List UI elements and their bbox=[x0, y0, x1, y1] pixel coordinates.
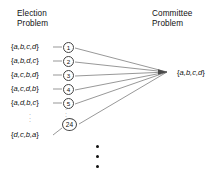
edge-4 bbox=[75, 72, 167, 90]
stub-24 bbox=[53, 128, 62, 135]
edge-1 bbox=[75, 48, 167, 72]
brace-close: } bbox=[202, 68, 205, 77]
node-circle-ellipsis: · · · bbox=[65, 108, 67, 119]
permutation-letters: d,c,b,a bbox=[14, 130, 37, 139]
brace-close: } bbox=[36, 130, 39, 139]
permutation-letters: a,b,d,c bbox=[14, 56, 37, 65]
list-item: {d,c,b,a} bbox=[11, 130, 39, 139]
list-item: {a,b,d,c} bbox=[11, 56, 39, 65]
list-item: {a,b,c,d} bbox=[11, 42, 39, 51]
committee-letters: a,b,c,d bbox=[180, 68, 203, 77]
brace-close: } bbox=[36, 70, 39, 79]
node-circle-3: 3 bbox=[63, 70, 74, 81]
node-circle-2: 2 bbox=[63, 56, 74, 67]
permutation-letters: a,d,b,c bbox=[14, 98, 37, 107]
brace-close: } bbox=[36, 42, 39, 51]
edge-2 bbox=[75, 62, 167, 72]
node-circle-1: 1 bbox=[63, 42, 74, 53]
figure-bottom-ellipsis bbox=[96, 145, 99, 168]
permutation-letters: a,b,c,d bbox=[14, 42, 37, 51]
mapping-diagram: Election Problem Committee Problem {a,b,… bbox=[0, 0, 213, 177]
brace-close: } bbox=[36, 84, 39, 93]
edge-3 bbox=[75, 72, 167, 76]
brace-close: } bbox=[36, 98, 39, 107]
ellipsis-dot bbox=[96, 165, 99, 168]
list-item: {a,c,d,b} bbox=[11, 84, 39, 93]
permutation-list-ellipsis: · · · bbox=[29, 113, 31, 124]
node-circle-4: 4 bbox=[63, 84, 74, 95]
permutation-letters: a,c,d,b bbox=[14, 84, 37, 93]
arrowhead bbox=[158, 69, 167, 75]
node-circle-24: 24 bbox=[62, 118, 77, 131]
ellipsis-dot bbox=[96, 155, 99, 158]
ellipsis-dot bbox=[96, 145, 99, 148]
permutation-letters: a,c,b,d bbox=[14, 70, 37, 79]
list-item: {a,c,b,d} bbox=[11, 70, 39, 79]
brace-close: } bbox=[36, 56, 39, 65]
committee-target-label: {a,b,c,d} bbox=[177, 68, 205, 77]
list-item: {a,d,b,c} bbox=[11, 98, 39, 107]
